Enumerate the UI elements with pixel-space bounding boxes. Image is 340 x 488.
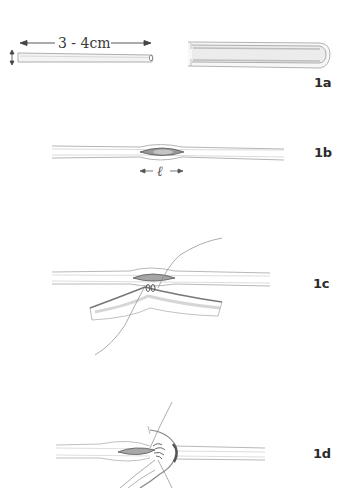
figure-label-1a: 1a — [314, 75, 331, 90]
interrupted-sutures — [153, 444, 165, 459]
vessel-with-arteriotomy — [52, 145, 284, 161]
panel-1c-illustration — [0, 220, 340, 360]
recipient-vessel — [52, 268, 270, 286]
graft-vessel — [90, 287, 222, 320]
panel-1a: 3 - 4cm 1a — [0, 0, 340, 110]
panel-1c: 1c — [0, 220, 340, 360]
vein-segment-opened — [188, 42, 330, 68]
graft-vessel — [128, 426, 177, 488]
panel-1b-illustration: ℓ — [0, 120, 340, 200]
panel-1d: 1d — [0, 360, 340, 488]
figure-label-1d: 1d — [313, 446, 331, 461]
incision-length-annotation: ℓ — [157, 163, 163, 179]
panel-1d-illustration — [0, 360, 340, 488]
length-annotation: 3 - 4cm — [58, 35, 111, 51]
diameter-arrow-icon — [10, 50, 14, 65]
panel-1a-illustration: 3 - 4cm — [0, 0, 340, 110]
figure-label-1b: 1b — [314, 145, 332, 160]
vein-segment-intact — [18, 53, 153, 62]
suture-thread — [95, 238, 222, 355]
figure-label-1c: 1c — [313, 276, 329, 291]
panel-1b: ℓ 1b — [0, 120, 340, 200]
